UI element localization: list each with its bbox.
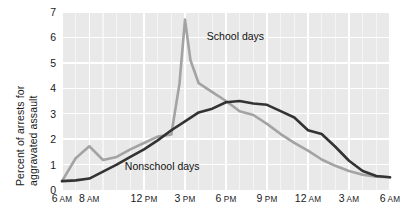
series-label-school-days: School days: [207, 30, 264, 42]
x-axis-ticks: 6 AM8 AM12 PM3 PM6 PM9 PM12 AM3 AM6 AM: [62, 192, 390, 212]
x-axis-tick-label: 6 AM: [380, 192, 401, 204]
x-axis-tick-label: 3 AM: [339, 192, 360, 204]
x-axis-tick-label: 6 PM: [216, 192, 237, 204]
y-axis-tick-label: 4: [2, 82, 56, 94]
y-axis-tick-label: 0: [2, 184, 56, 196]
x-axis-tick-label: 12 PM: [131, 192, 158, 204]
x-axis-tick-label: 8 AM: [79, 192, 100, 204]
x-axis-tick-label: 6 AM: [52, 192, 73, 204]
x-axis-tick-label: 3 PM: [175, 192, 196, 204]
y-axis-tick-label: 6: [2, 31, 56, 43]
y-axis-tick-label: 3: [2, 108, 56, 120]
plot-area: School days Nonschool days: [62, 12, 390, 190]
x-axis-tick-label: 9 PM: [257, 192, 278, 204]
chart-root: Percent of arrests for aggravated assaul…: [0, 0, 414, 224]
y-axis-tick-label: 5: [2, 57, 56, 69]
y-axis-tick-label: 2: [2, 133, 56, 145]
series-line-school-days: [62, 20, 390, 181]
x-axis-tick-label: 12 AM: [295, 192, 321, 204]
series-label-nonschool-days: Nonschool days: [125, 160, 200, 172]
y-axis-tick-label: 7: [2, 6, 56, 18]
y-axis-ticks: 01234567: [0, 12, 56, 190]
y-axis-tick-label: 1: [2, 159, 56, 171]
